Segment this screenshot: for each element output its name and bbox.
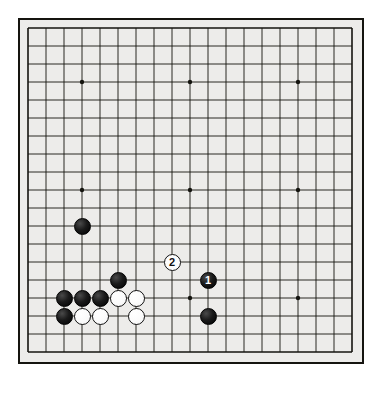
stone-white: [92, 308, 109, 325]
stone-black: [200, 308, 217, 325]
stone-white: [128, 308, 145, 325]
go-board: 12: [18, 18, 364, 364]
stone-black: [110, 272, 127, 289]
stone-white: [128, 290, 145, 307]
caption-bar: 问题图 4: [0, 368, 377, 401]
move-number: 1: [205, 275, 211, 286]
stone-white: [74, 308, 91, 325]
move-stone-2: 2: [164, 254, 181, 271]
move-number: 2: [169, 257, 175, 268]
move-stone-1: 1: [200, 272, 217, 289]
stone-black: [56, 308, 73, 325]
stone-black: [56, 290, 73, 307]
stone-black: [92, 290, 109, 307]
stone-white: [110, 290, 127, 307]
stone-black: [74, 290, 91, 307]
stone-black: [74, 218, 91, 235]
